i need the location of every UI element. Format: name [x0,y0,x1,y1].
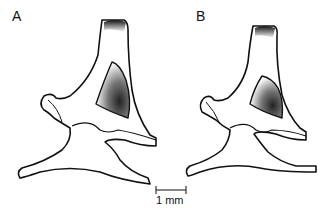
bone-drawings [0,0,323,211]
scale-bar-label: 1 mm [156,194,184,206]
bone-drawing-a [18,20,156,184]
bone-drawing-b [186,26,316,176]
scale-bar [156,186,186,194]
